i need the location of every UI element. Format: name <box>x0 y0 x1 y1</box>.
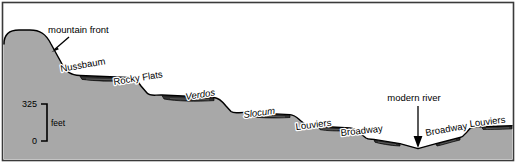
modern-river-label: modern river <box>387 92 440 103</box>
mountain-front-label: mountain front <box>48 24 109 35</box>
scale-bar-bottom-value: 0 <box>32 136 37 146</box>
scale-bar-unit-label: feet <box>51 118 66 128</box>
terrace-cross-section-figure: 325 0 feet mountain front modern river N… <box>0 0 516 163</box>
scale-bar-top-value: 325 <box>22 99 37 109</box>
